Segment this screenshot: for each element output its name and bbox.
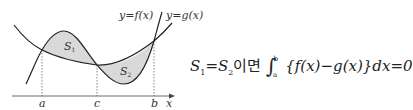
tick-c: c	[94, 97, 100, 110]
formula-eq: =S	[205, 57, 228, 75]
formula: S1=S2이면 ∫ba{f(x)−g(x)}dx=0	[190, 52, 413, 77]
curve-f-label: y=f(x)	[118, 9, 153, 22]
integral-upper: b	[274, 55, 278, 63]
tick-b: b	[151, 97, 158, 110]
tick-a: a	[39, 97, 46, 110]
formula-connector: 이면	[233, 57, 261, 75]
curve-g-label: y=g(x)	[165, 9, 203, 22]
formula-integrand: {f(x)−g(x)}dx=0	[285, 57, 412, 75]
formula-s: S	[190, 57, 200, 75]
integral-lower: a	[273, 71, 277, 79]
x-axis-label: x	[166, 97, 173, 110]
